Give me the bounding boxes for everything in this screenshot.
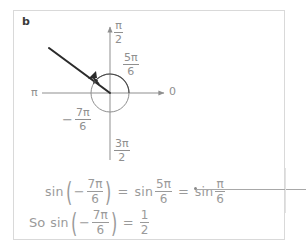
axis-label-zero: 0 (169, 85, 176, 98)
negative-sign: − (62, 112, 73, 127)
part-label-b: b (22, 15, 30, 28)
sin-function-3: sin (195, 184, 214, 199)
worksheet-page: b π (0, 0, 306, 250)
angle-label-negative-7pi-over-6: − 7π 6 (62, 107, 92, 132)
denominator: 6 (215, 192, 225, 205)
5pi-over-6-numerator: 5π (123, 52, 139, 64)
fraction-7pi-over-6-b: 7π 6 (92, 209, 109, 236)
fraction-7pi-over-6: 7π 6 (87, 178, 104, 205)
fraction-pi-over-6: π 6 (215, 178, 225, 205)
equals-sign-2: = (178, 184, 189, 199)
numerator: 1 (140, 209, 150, 222)
negative-sign-2: − (79, 215, 90, 230)
sin-function-2: sin (135, 184, 154, 199)
so-word: So (29, 215, 45, 230)
5pi-over-6-denominator: 6 (126, 65, 135, 77)
numerator: 5π (155, 178, 172, 191)
equals-sign-1: = (118, 184, 129, 199)
sin-function-4: sin (50, 215, 69, 230)
denominator: 2 (140, 223, 150, 236)
3pi-over-2-denominator: 2 (117, 151, 126, 163)
callout-leader-line (196, 189, 306, 190)
axis-label-pi-over-2: π 2 (113, 20, 124, 45)
7pi-over-6-denominator: 6 (78, 120, 87, 132)
side-margin-rule (285, 168, 286, 213)
worksheet-panel (13, 10, 285, 240)
denominator: 6 (90, 192, 100, 205)
equation-line-2: So sin ( − 7π 6 ) = 1 2 (28, 209, 150, 236)
7pi-over-6-numerator: 7π (75, 107, 91, 119)
denominator: 6 (95, 223, 105, 236)
negative-sign-1: − (74, 184, 85, 199)
pi-over-2-numerator: π (114, 20, 123, 32)
axis-label-pi: π (31, 86, 38, 99)
equation-line-1: sin ( − 7π 6 ) = sin 5π 6 = sin π 6 (44, 178, 226, 205)
fraction-5pi-over-6: 5π 6 (155, 178, 172, 205)
fraction-one-half: 1 2 (140, 209, 150, 236)
pi-over-2-denominator: 2 (114, 33, 123, 45)
denominator: 6 (159, 192, 169, 205)
axis-label-3pi-over-2: 3π 2 (113, 138, 131, 163)
numerator: 7π (92, 209, 109, 222)
sin-function-1: sin (45, 184, 64, 199)
equals-sign-3: = (123, 215, 134, 230)
angle-label-5pi-over-6: 5π 6 (122, 52, 140, 77)
3pi-over-2-numerator: 3π (114, 138, 130, 150)
numerator: 7π (87, 178, 104, 191)
